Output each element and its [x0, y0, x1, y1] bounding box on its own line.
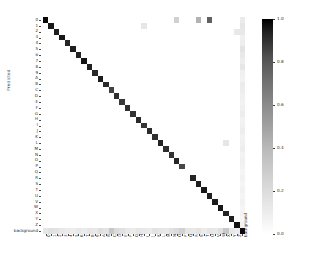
y-tick-mark — [39, 202, 41, 203]
y-tick-mark — [39, 90, 41, 91]
x-tick-mark — [133, 234, 134, 236]
x-tick-mark — [73, 234, 74, 236]
y-tick-mark — [39, 190, 41, 191]
y-tick-label: 3 — [35, 35, 38, 39]
x-tick-mark — [237, 234, 238, 236]
y-tick-label: D — [35, 94, 38, 98]
colorbar-tick-mark — [273, 191, 275, 192]
colorbar-tick-mark — [273, 148, 275, 149]
y-tick-label: F — [36, 106, 38, 110]
x-tick-mark — [182, 234, 183, 236]
y-tick-mark — [39, 84, 41, 85]
x-tick-mark — [171, 234, 172, 236]
y-tick-label: U — [35, 194, 38, 198]
x-tick-mark — [57, 234, 58, 236]
y-tick-label: J — [37, 129, 38, 133]
x-tick-mark — [226, 234, 227, 236]
x-tick-mark — [177, 234, 178, 236]
y-tick-mark — [39, 155, 41, 156]
y-tick-mark — [39, 120, 41, 121]
y-tick-mark — [39, 161, 41, 162]
y-tick-mark — [39, 231, 41, 232]
y-tick-mark — [39, 149, 41, 150]
colorbar-tick-label: 0.6 — [277, 103, 284, 107]
y-tick-label: N — [35, 153, 38, 157]
y-tick-mark — [39, 79, 41, 80]
y-tick-mark — [39, 114, 41, 115]
y-tick-label: 7 — [35, 59, 38, 63]
y-tick-label: Q — [35, 170, 38, 174]
y-tick-mark — [39, 26, 41, 27]
x-tick-label: J — [151, 236, 155, 237]
y-tick-mark — [39, 61, 41, 62]
y-tick-mark — [39, 20, 41, 21]
colorbar-tick-label: 0.0 — [277, 232, 284, 236]
y-tick-label: 9 — [35, 71, 38, 75]
x-tick-mark — [188, 234, 189, 236]
x-tick-mark — [46, 234, 47, 236]
y-tick-label: P — [36, 164, 38, 168]
x-tick-mark — [117, 234, 118, 236]
y-tick-label: background — [14, 229, 38, 233]
y-tick-mark — [39, 213, 41, 214]
y-tick-mark — [39, 55, 41, 56]
x-tick-mark — [144, 234, 145, 236]
colorbar-tick-label: 1.0 — [277, 17, 284, 21]
x-tick-mark — [78, 234, 79, 236]
heatmap-grid — [43, 17, 245, 234]
y-tick-mark — [39, 208, 41, 209]
y-tick-label: W — [34, 205, 38, 209]
x-tick-mark — [89, 234, 90, 236]
y-tick-label: 8 — [35, 65, 38, 69]
heatmap-plot-area — [43, 17, 245, 234]
y-tick-label: G — [35, 112, 38, 116]
y-tick-label: 2 — [35, 29, 38, 33]
x-tick-mark — [220, 234, 221, 236]
y-tick-mark — [39, 167, 41, 168]
colorbar-tick-mark — [273, 19, 275, 20]
y-tick-mark — [39, 137, 41, 138]
colorbar-tick-labels: 1.00.80.60.40.20.0 — [273, 19, 307, 234]
x-tick-mark — [106, 234, 107, 236]
y-tick-label: T — [35, 188, 38, 192]
x-tick-mark — [210, 234, 211, 236]
x-tick-mark — [51, 234, 52, 236]
y-tick-mark — [39, 43, 41, 44]
y-tick-label: M — [34, 147, 38, 151]
x-tick-mark — [166, 234, 167, 236]
y-tick-label: 4 — [35, 41, 38, 45]
x-axis-tick-labels: 0123456789ABCDEFGHIJKLMNOPQRSTUVWXYZback… — [43, 234, 245, 277]
y-tick-label: E — [35, 100, 38, 104]
y-tick-mark — [39, 102, 41, 103]
x-tick-mark — [193, 234, 194, 236]
x-tick-mark — [84, 234, 85, 236]
y-tick-mark — [39, 219, 41, 220]
y-tick-label: 5 — [35, 47, 38, 51]
y-tick-mark — [39, 178, 41, 179]
colorbar-gradient — [262, 19, 273, 234]
colorbar-tick-mark — [273, 105, 275, 106]
x-tick-mark — [204, 234, 205, 236]
x-tick-mark — [160, 234, 161, 236]
x-tick-mark — [128, 234, 129, 236]
colorbar-tick-mark — [273, 234, 275, 235]
x-tick-mark — [155, 234, 156, 236]
y-tick-mark — [39, 172, 41, 173]
y-tick-mark — [39, 67, 41, 68]
y-tick-label: K — [35, 135, 38, 139]
y-tick-label: Y — [35, 217, 38, 221]
y-tick-mark — [39, 184, 41, 185]
y-tick-label: I — [37, 123, 38, 127]
y-tick-mark — [39, 225, 41, 226]
y-tick-mark — [39, 49, 41, 50]
y-tick-label: L — [36, 141, 38, 145]
y-tick-label: A — [35, 76, 38, 80]
y-axis-tick-labels: 0123456789ABCDEFGHIJKLMNOPQRSTUVWXYZback… — [0, 17, 41, 234]
x-tick-mark — [100, 234, 101, 236]
x-tick-mark — [231, 234, 232, 236]
y-tick-label: V — [35, 200, 38, 204]
x-tick-label: background — [244, 213, 248, 237]
y-tick-label: B — [35, 82, 38, 86]
y-tick-label: S — [35, 182, 38, 186]
y-tick-label: C — [35, 88, 38, 92]
